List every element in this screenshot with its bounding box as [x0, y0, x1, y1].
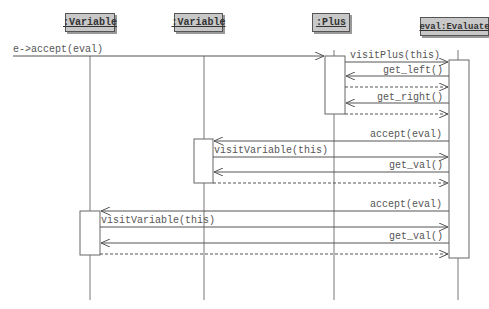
message-label-get-val-2: get_val(): [389, 161, 443, 171]
message-label-visitvariable-1: visitVariable(this): [101, 216, 215, 226]
activation-variable-2: [194, 139, 213, 183]
activation-plus: [325, 56, 345, 114]
message-label-get-left: get_left(): [383, 66, 443, 76]
message-label-visitvariable-2: visitVariable(this): [214, 146, 328, 156]
message-label-get-right: get_right(): [377, 93, 443, 103]
message-label-e-accept: e->accept(eval): [13, 45, 103, 55]
activation-evaluate: [449, 60, 469, 258]
message-label-accept-variable-2: accept(eval): [370, 130, 442, 140]
message-label-accept-variable-1: accept(eval): [370, 200, 442, 210]
message-label-visitplus: visitPlus(this): [350, 51, 440, 61]
message-label-get-val-1: get_val(): [389, 232, 443, 242]
activation-variable-1: [80, 211, 100, 255]
